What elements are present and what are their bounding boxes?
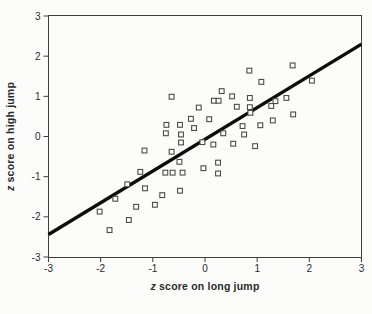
data-point-marker — [200, 140, 205, 145]
data-point-marker — [138, 169, 143, 174]
data-point-marker — [211, 98, 216, 103]
x-axis-label-rest: score on long jump — [156, 280, 260, 292]
data-point-marker — [169, 94, 174, 99]
data-point-marker — [247, 96, 252, 101]
data-point-marker — [216, 171, 221, 176]
data-point-marker — [143, 186, 148, 191]
data-point-marker — [273, 99, 278, 104]
data-point-marker — [126, 218, 131, 223]
data-point-marker — [230, 94, 235, 99]
data-point-marker — [216, 160, 221, 165]
x-axis-tick-label: 0 — [202, 263, 208, 274]
data-point-marker — [310, 78, 315, 83]
y-axis-tick-label: -1 — [32, 171, 41, 182]
data-point-marker — [107, 228, 112, 233]
data-point-marker — [240, 124, 245, 129]
data-point-marker — [189, 116, 194, 121]
x-axis-tick-label: 1 — [254, 263, 260, 274]
y-axis-tick-label: -2 — [32, 211, 41, 222]
data-point-marker — [258, 123, 263, 128]
x-axis-tick-label: 2 — [307, 263, 313, 274]
data-point-marker — [253, 144, 258, 149]
x-axis-tick-label: -2 — [96, 263, 105, 274]
y-axis-tick-label: -3 — [32, 252, 41, 263]
x-axis-tick-label: 3 — [359, 263, 365, 274]
data-point-marker — [234, 104, 239, 109]
data-point-marker — [178, 188, 183, 193]
y-axis-tick-label: 2 — [35, 51, 41, 62]
data-point-marker — [163, 170, 168, 175]
x-axis-tick-label: -3 — [44, 263, 53, 274]
data-point-marker — [219, 89, 224, 94]
data-point-marker — [125, 182, 130, 187]
data-point-marker — [291, 112, 296, 117]
data-point-marker — [178, 122, 183, 127]
data-point-marker — [269, 104, 274, 109]
data-point-marker — [196, 105, 201, 110]
plot-canvas: -3-2-10123-3-2-10123z score on long jump… — [0, 0, 372, 314]
data-point-marker — [231, 141, 236, 146]
x-axis-label: z score on long jump — [149, 280, 259, 292]
data-point-marker — [97, 209, 102, 214]
data-point-marker — [134, 204, 139, 209]
data-point-marker — [113, 196, 118, 201]
data-point-marker — [290, 63, 295, 68]
data-point-marker — [207, 117, 212, 122]
x-axis-tick-label: -1 — [148, 263, 157, 274]
data-point-marker — [284, 96, 289, 101]
y-axis-tick-label: 3 — [35, 11, 41, 22]
data-point-marker — [216, 98, 221, 103]
data-point-marker — [164, 122, 169, 127]
data-point-marker — [270, 118, 275, 123]
y-axis-tick-label: 0 — [35, 131, 41, 142]
data-point-marker — [247, 105, 252, 110]
scatterplot-figure: -3-2-10123-3-2-10123z score on long jump… — [0, 0, 372, 314]
data-point-marker — [153, 202, 158, 207]
data-point-marker — [247, 68, 252, 73]
data-point-marker — [180, 170, 185, 175]
data-point-marker — [201, 166, 206, 171]
plot-frame — [49, 16, 362, 258]
data-point-marker — [163, 131, 168, 136]
y-axis-label: z score on high jump — [4, 82, 16, 192]
data-point-marker — [160, 193, 165, 198]
data-point-marker — [179, 140, 184, 145]
y-axis-tick-label: 1 — [35, 91, 41, 102]
data-point-marker — [179, 132, 184, 137]
data-point-marker — [242, 132, 247, 137]
y-axis-label-rest: score on high jump — [4, 82, 16, 186]
data-point-marker — [259, 79, 264, 84]
data-point-marker — [170, 170, 175, 175]
data-point-marker — [248, 110, 253, 115]
data-point-marker — [192, 126, 197, 131]
data-point-marker — [169, 149, 174, 154]
data-point-marker — [221, 131, 226, 136]
data-point-marker — [211, 142, 216, 147]
data-point-marker — [177, 159, 182, 164]
data-point-marker — [142, 148, 147, 153]
